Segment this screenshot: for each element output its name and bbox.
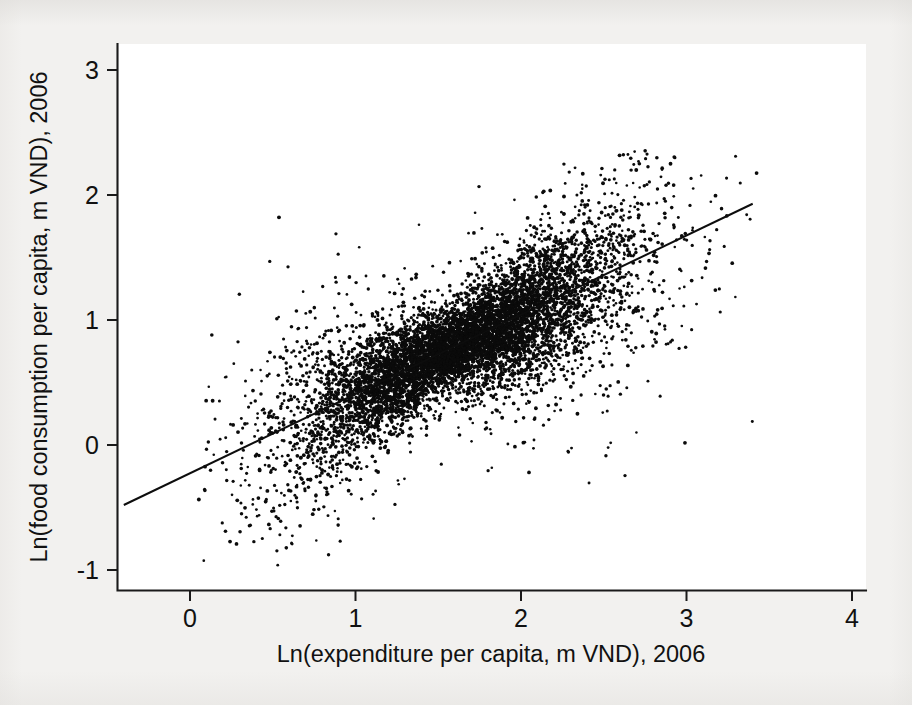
scatter-point [329,362,333,366]
scatter-point [311,512,315,516]
scatter-point [546,308,549,311]
scatter-point [576,257,580,261]
scatter-point [751,420,754,423]
scatter-point [488,289,491,292]
scatter-point [452,294,456,298]
scatter-point [336,326,339,329]
scatter-point [526,326,529,329]
scatter-point [561,260,564,263]
scatter-point [672,155,676,159]
scatter-point [422,322,426,326]
scatter-point [485,323,488,326]
scatter-point [473,322,477,326]
scatter-point [529,224,532,227]
scatter-point [314,363,317,366]
scatter-point [535,391,538,394]
scatter-point [559,397,562,400]
scatter-point [323,455,326,458]
scatter-point [571,371,575,375]
scatter-point [486,361,489,364]
scatter-point [406,398,409,401]
scatter-point [293,476,296,479]
scatter-point [440,365,443,368]
scatter-point [476,376,479,379]
scatter-point [518,338,521,341]
scatter-point [446,330,449,333]
scatter-point [381,317,385,321]
scatter-point [288,458,292,462]
scatter-point [313,435,316,438]
scatter-point [487,335,490,338]
scatter-point [448,366,451,369]
scatter-point [664,328,667,331]
scatter-point [320,471,324,475]
scatter-point [459,260,462,263]
scatter-point [494,318,497,321]
scatter-point [314,317,317,320]
scatter-point [366,419,369,422]
scatter-point [402,372,406,376]
scatter-point [416,367,420,371]
scatter-point [339,378,342,381]
scatter-point [476,338,480,342]
scatter-point [500,386,504,390]
scatter-point [647,279,650,282]
scatter-point [307,486,310,489]
scatter-point [554,235,557,238]
scatter-point [493,335,496,338]
scatter-point [607,213,610,216]
scatter-point [565,310,568,313]
scatter-point [292,420,295,423]
scatter-point [495,398,498,401]
scatter-point [356,440,359,443]
x-tick-label: 0 [183,604,197,632]
scatter-point [308,346,312,350]
scatter-point [466,344,469,347]
scatter-point [546,291,549,294]
scatter-point [610,313,614,317]
scatter-point [358,407,361,410]
scatter-point [599,256,602,259]
scatter-point [623,474,626,477]
scatter-point [417,385,420,388]
scatter-point [428,398,432,402]
scatter-point [299,379,302,382]
scatter-point [510,348,513,351]
scatter-point [395,403,399,407]
scatter-point [289,397,293,401]
scatter-point [275,457,278,460]
scatter-point [294,448,297,451]
scatter-point [468,382,471,385]
scatter-point [336,407,340,411]
scatter-point [547,224,551,228]
scatter-point [503,275,507,279]
scatter-point [488,347,491,350]
scatter-point [268,260,271,263]
scatter-point [289,500,292,503]
scatter-point [423,295,427,299]
scatter-point [428,317,431,320]
scatter-point [288,441,292,445]
scatter-point [385,332,388,335]
scatter-point [645,152,648,155]
scatter-point [403,343,406,346]
scatter-point [300,345,303,348]
scatter-point [400,328,403,331]
scatter-point [294,470,298,474]
scatter-point [345,432,348,435]
scatter-point [364,426,367,429]
scatter-point [197,498,201,502]
scatter-point [295,500,298,503]
scatter-point [409,325,412,328]
scatter-point [589,369,592,372]
scatter-point [566,237,570,241]
scatter-point [405,419,408,422]
scatter-point [374,405,378,409]
scatter-point [257,454,261,458]
scatter-point [575,239,578,242]
scatter-point [592,318,596,322]
scatter-point [557,343,560,346]
scatter-point [683,286,686,289]
scatter-point [417,313,420,316]
scatter-point [597,201,601,205]
